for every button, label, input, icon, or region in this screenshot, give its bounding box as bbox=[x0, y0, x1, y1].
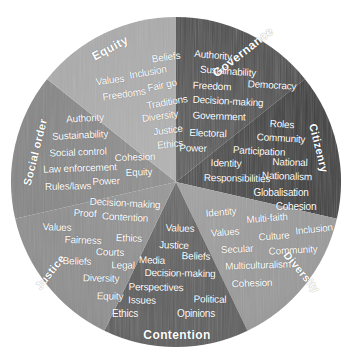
wheel-svg bbox=[0, 0, 353, 364]
concept-wheel-figure: BeliefsInclusionValuesFair goFreedomsTra… bbox=[0, 0, 353, 364]
wheel-shading bbox=[11, 17, 341, 347]
